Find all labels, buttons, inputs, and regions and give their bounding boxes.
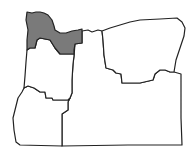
oregon-region-map: Oregon regions <box>0 0 195 160</box>
map-canvas <box>0 0 195 160</box>
